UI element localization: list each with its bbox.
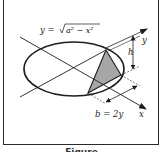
figure-caption: Figure	[0, 148, 163, 152]
y-axis-line	[106, 29, 147, 48]
equation-radicand: a² − x²	[66, 26, 93, 35]
b-extension-line-right	[121, 75, 140, 86]
ellipse-cross-section-diagram: y = a² − x² y h b = 2y x	[0, 0, 163, 152]
h-label: h	[128, 47, 133, 57]
equation-label: y =	[39, 25, 55, 35]
y-axis-line-double	[108, 36, 140, 51]
x-axis-label: x	[139, 109, 144, 119]
y-axis-label: y	[141, 35, 147, 45]
triangle-cross-section	[88, 50, 121, 93]
base-label: b = 2y	[95, 109, 123, 119]
